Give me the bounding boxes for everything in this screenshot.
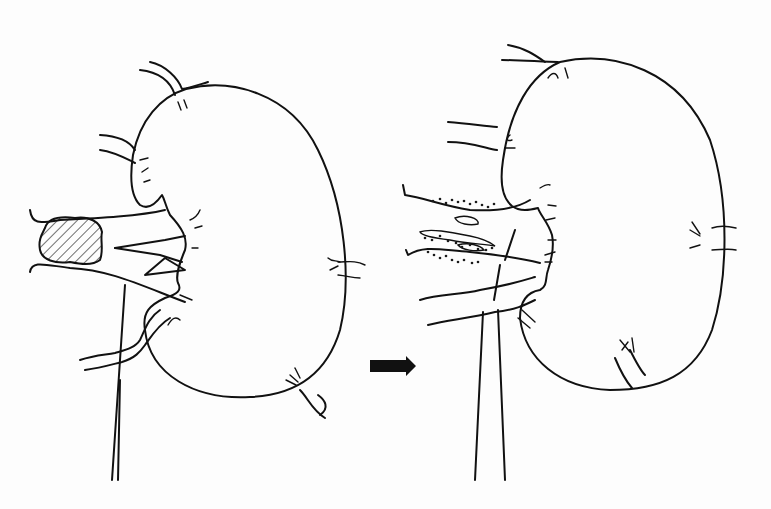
capsule-mark xyxy=(178,102,181,110)
vessel xyxy=(115,236,185,248)
vessel xyxy=(630,350,645,375)
vessel xyxy=(100,135,135,150)
debris-dot xyxy=(485,249,488,252)
capsule-mark xyxy=(690,245,700,248)
debris-dot xyxy=(427,251,430,254)
capsule-mark xyxy=(295,368,300,378)
capsule-mark xyxy=(144,180,150,182)
capsule-mark xyxy=(140,158,148,160)
debris-dot xyxy=(481,204,484,207)
capsule-mark xyxy=(180,295,192,300)
vessel xyxy=(140,70,175,95)
debris-dot xyxy=(477,261,480,264)
capsule-mark xyxy=(290,375,298,382)
capsule-mark xyxy=(286,380,296,385)
debris-dot xyxy=(475,201,478,204)
debris-dot xyxy=(439,257,442,260)
fragment xyxy=(420,230,495,246)
capsule-mark xyxy=(184,100,187,108)
vessel xyxy=(475,312,483,480)
vessel xyxy=(448,122,497,127)
vessel xyxy=(448,142,497,150)
capsule-mark xyxy=(548,205,556,206)
capsule-mark xyxy=(545,252,555,255)
debris-dot xyxy=(493,203,496,206)
capsule-mark xyxy=(330,266,338,270)
vessel xyxy=(30,264,185,302)
capsule-mark xyxy=(540,185,550,188)
capsule-mark xyxy=(190,210,200,220)
vessel xyxy=(420,277,535,300)
capsule-mark xyxy=(565,68,568,78)
debris-dot xyxy=(487,206,490,209)
debris-dot xyxy=(457,201,460,204)
debris-dot xyxy=(455,242,458,245)
debris-dot xyxy=(431,239,434,242)
debris-dot xyxy=(451,199,454,202)
capsule-mark xyxy=(338,262,365,265)
debris-dot xyxy=(451,259,454,262)
kidney-outline xyxy=(502,59,725,390)
capsule-mark xyxy=(195,226,202,228)
capsule-mark xyxy=(548,74,558,79)
vessel xyxy=(498,310,505,480)
debris-dot xyxy=(477,248,480,251)
capsule-mark xyxy=(712,249,736,250)
debris-dot xyxy=(463,200,466,203)
vessel xyxy=(403,185,530,210)
debris-dot xyxy=(424,237,427,240)
right-arrow-icon xyxy=(370,356,416,376)
capsule-mark xyxy=(338,275,360,278)
vessel xyxy=(80,310,160,360)
kidney-before-treatment xyxy=(30,62,365,480)
capsule-mark xyxy=(142,168,148,172)
kidney-outline xyxy=(131,86,345,398)
capsule-mark xyxy=(632,338,634,352)
debris-dot xyxy=(457,261,460,264)
vessel xyxy=(318,395,326,415)
capsule-mark xyxy=(522,310,535,322)
vessel xyxy=(115,248,182,262)
debris-dot xyxy=(432,200,435,203)
debris-dot xyxy=(471,262,474,265)
debris-dot xyxy=(439,235,442,238)
debris-dot xyxy=(461,246,464,249)
debris-dot xyxy=(491,247,494,250)
debris-dot xyxy=(445,202,448,205)
debris-dot xyxy=(439,198,442,201)
hatched-mass xyxy=(39,217,102,264)
vessel xyxy=(494,265,500,300)
vessel xyxy=(100,150,135,163)
medical-illustration xyxy=(0,0,771,509)
kidney-diagram-svg xyxy=(0,0,771,509)
fragment xyxy=(455,216,478,224)
debris-dot xyxy=(447,240,450,243)
vessel xyxy=(502,60,558,62)
debris-dot xyxy=(469,244,472,247)
capsule-mark xyxy=(546,218,555,220)
debris-dot xyxy=(433,254,436,257)
debris-dot xyxy=(445,255,448,258)
vessel xyxy=(505,230,515,260)
vessel xyxy=(428,300,535,325)
kidney-after-treatment xyxy=(403,45,736,480)
debris-dot xyxy=(469,203,472,206)
vessel xyxy=(615,358,632,388)
debris-dot xyxy=(463,259,466,262)
arrow-shape xyxy=(370,356,416,376)
